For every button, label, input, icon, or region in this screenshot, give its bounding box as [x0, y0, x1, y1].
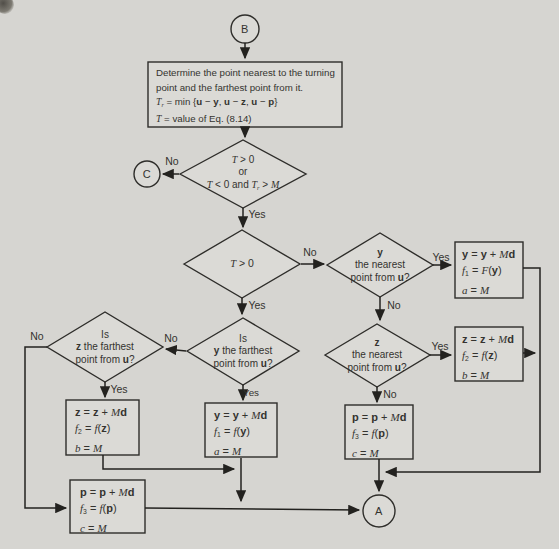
box-z-left-line-2: f2 = f(z) [75, 420, 127, 440]
decision-4-text: Is y the farthest point from u? [214, 333, 273, 370]
box-p-right-line-2: f3 = f(p) [352, 425, 406, 445]
decision-5-line-3: point from u? [348, 361, 407, 373]
branch-label-yes-d5: Yes [431, 340, 448, 352]
terminal-b-label: B [241, 23, 249, 35]
box-p-bottom-line-3: c = M [80, 520, 134, 536]
process-line-3: Tr = min {u − y, u − z, u − p} [156, 95, 335, 112]
connector-d4-no-to-d6 [166, 349, 186, 351]
decision-3-line-1: y [351, 247, 410, 259]
box-y-mid-line-3: a = M [214, 443, 267, 459]
branch-label-yes-d6: Yes [110, 383, 127, 395]
branch-label-yes-d4: Yes [243, 387, 259, 398]
connector-pbottom-to-a [145, 508, 359, 510]
branch-label-yes-d3: Yes [432, 251, 449, 263]
terminal-a-label: A [375, 505, 383, 517]
process-box-text: Determine the point nearest to the turni… [156, 66, 335, 127]
decision-6-line-3: point from u? [76, 353, 135, 365]
decision-1-text: T > 0 or T < 0 and Tr > M [207, 154, 280, 194]
box-y-mid-text: y = y + Md f1 = f(y) a = M [214, 407, 267, 459]
flowchart: B C A Determine the point nearest to the… [0, 0, 559, 549]
box-y-mid-line-1: y = y + Md [214, 407, 267, 423]
decision-1-line-3: T < 0 and Tr > M [207, 179, 280, 194]
box-y-right-line-2: f1 = F(y) [462, 262, 515, 282]
box-y-right-line-3: a = M [462, 282, 515, 298]
decision-2-text: T > 0 [230, 257, 254, 270]
decision-6-text: Is z the farthest point from u? [76, 329, 135, 366]
decision-4-line-1: Is [214, 333, 273, 345]
box-p-right-line-3: c = M [352, 445, 406, 461]
box-z-right-line-1: z = z + Md [462, 331, 514, 347]
decision-2-line-1: T > 0 [230, 257, 254, 270]
branch-label-no-d4: No [164, 332, 177, 344]
box-z-left-text: z = z + Md f2 = f(z) b = M [75, 404, 127, 456]
box-p-bottom-line-1: p = p + Md [80, 484, 134, 500]
decision-5-text: z the nearest point from u? [348, 337, 407, 374]
box-y-mid-line-2: f1 = f(y) [214, 423, 267, 443]
box-p-bottom-line-2: f3 = f(p) [80, 500, 134, 520]
box-z-right-text: z = z + Md f2 = f(z) b = M [462, 331, 514, 383]
branch-label-no-d2: No [303, 246, 316, 258]
decision-1-line-1: T > 0 [207, 154, 280, 166]
box-y-right-text: y = y + Md f1 = F(y) a = M [462, 246, 515, 298]
process-line-4: T = value of Eq. (8.14) [156, 112, 335, 127]
branch-label-no-d3: No [387, 299, 400, 311]
branch-label-no-d5: No [383, 388, 396, 400]
box-p-right-text: p = p + Md f3 = f(p) c = M [352, 409, 406, 461]
connector-d6-no-to-pbottom [25, 347, 66, 508]
decision-3-line-2: the nearest [351, 259, 410, 271]
decision-1-line-2: or [207, 166, 280, 178]
box-z-right-line-3: b = M [462, 367, 514, 383]
decision-5-line-1: z [348, 337, 407, 349]
decision-6-line-1: Is [76, 329, 135, 341]
box-p-right-line-1: p = p + Md [352, 409, 406, 425]
decision-4-line-3: point from u? [214, 357, 273, 369]
box-z-right-line-2: f2 = f(z) [462, 347, 514, 367]
branch-label-no-d1: No [165, 155, 178, 167]
box-z-left-line-3: b = M [75, 440, 127, 456]
decision-4-line-2: y the farthest [214, 345, 273, 357]
branch-label-no-d6: No [30, 330, 43, 342]
box-p-bottom-text: p = p + Md f3 = f(p) c = M [80, 484, 134, 536]
decision-5-line-2: the nearest [348, 349, 407, 361]
decision-3-text: y the nearest point from u? [351, 247, 410, 284]
branch-label-yes-d1: Yes [248, 208, 265, 220]
box-y-right-line-1: y = y + Md [462, 246, 515, 262]
terminal-c-label: C [143, 168, 151, 180]
branch-label-yes-d2: Yes [248, 299, 265, 311]
box-z-left-line-1: z = z + Md [75, 404, 127, 420]
decision-3-line-3: point from u? [351, 271, 410, 283]
process-line-1: Determine the point nearest to the turni… [156, 66, 335, 81]
decision-6-line-2: z the farthest [76, 341, 135, 353]
process-line-2: point and the farthest point from it. [156, 81, 335, 96]
